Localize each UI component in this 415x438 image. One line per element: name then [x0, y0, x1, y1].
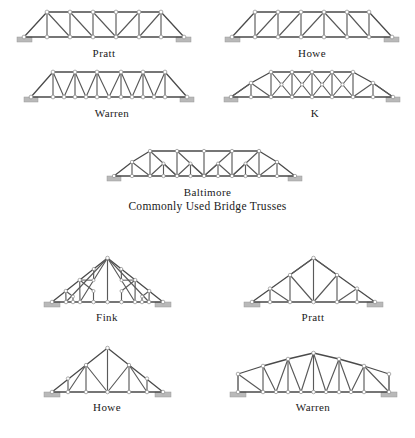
supports — [17, 37, 191, 42]
truss-figure-roof-howe: Howe — [12, 342, 202, 413]
truss-diagram-sheet: Pratt — [0, 0, 415, 438]
truss-figure-bridge-warren: Warren — [22, 64, 202, 119]
web-members — [132, 151, 277, 176]
roof-fink-svg — [12, 252, 202, 310]
truss-figure-roof-fink: Fink — [12, 252, 202, 323]
bridge-pratt-svg — [8, 4, 200, 46]
truss-label-bridge-k: K — [222, 107, 408, 119]
web-members — [255, 12, 369, 37]
truss-figure-bridge-baltimore: Baltimore — [105, 143, 310, 198]
truss-label-roof-pratt: Pratt — [218, 311, 408, 323]
web-members — [47, 12, 161, 37]
truss-label-bridge-howe: Howe — [216, 47, 408, 59]
truss-figure-bridge-k: K — [222, 64, 408, 119]
truss-figure-roof-pratt: Pratt — [218, 252, 408, 323]
roof-pratt-svg — [218, 252, 408, 310]
bridge-k-svg — [222, 64, 408, 106]
truss-label-bridge-warren: Warren — [22, 107, 202, 119]
section-caption-bridge: Commonly Used Bridge Trusses — [0, 200, 415, 212]
truss-label-roof-fink: Fink — [12, 311, 202, 323]
truss-label-roof-warren: Warren — [218, 401, 408, 413]
bridge-howe-svg — [216, 4, 408, 46]
truss-figure-bridge-howe: Howe — [216, 4, 408, 59]
truss-figure-roof-warren: Warren — [218, 342, 408, 413]
roof-warren-svg — [218, 342, 408, 400]
roof-howe-svg — [12, 342, 202, 400]
web-members — [231, 72, 393, 97]
bridge-warren-svg — [22, 64, 202, 106]
web-members — [238, 353, 389, 392]
truss-label-bridge-pratt: Pratt — [8, 47, 200, 59]
supports — [225, 37, 399, 42]
truss-label-roof-howe: Howe — [12, 401, 202, 413]
bridge-baltimore-svg — [105, 143, 310, 185]
truss-figure-bridge-pratt: Pratt — [8, 4, 200, 59]
truss-label-bridge-baltimore: Baltimore — [105, 186, 310, 198]
web-members — [53, 72, 165, 97]
